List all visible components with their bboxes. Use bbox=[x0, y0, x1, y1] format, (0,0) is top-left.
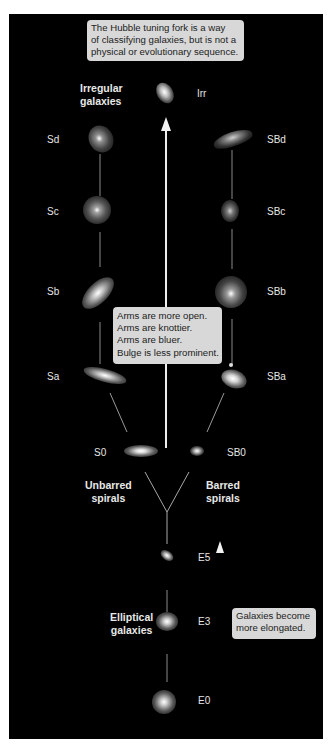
sb0-galaxy-image bbox=[190, 446, 204, 456]
note-line: Arms are knottier. bbox=[117, 322, 218, 334]
note-line: more elongated. bbox=[236, 622, 312, 634]
fork-stem bbox=[145, 472, 189, 544]
label-line: spirals bbox=[206, 492, 240, 505]
s0-galaxy-image bbox=[124, 445, 158, 457]
class-label-sb0: SB0 bbox=[227, 447, 246, 459]
classification-note: The Hubble tuning fork is a way of class… bbox=[87, 20, 244, 61]
class-label-sbd: SBd bbox=[267, 134, 286, 146]
sc-galaxy-image bbox=[83, 196, 111, 224]
class-label-sbb: SBb bbox=[267, 286, 286, 298]
class-label-sd: Sd bbox=[47, 134, 59, 146]
irregular-galaxies-label: Irregular galaxies bbox=[80, 82, 123, 108]
note-line: Bulge is less prominent. bbox=[117, 347, 218, 359]
elliptical-trend-note: Galaxies become more elongated. bbox=[232, 608, 316, 639]
note-line: physical or evolutionary sequence. bbox=[91, 46, 240, 58]
class-label-sc: Sc bbox=[47, 206, 59, 218]
sbb-galaxy-image bbox=[215, 276, 247, 308]
label-line: spirals bbox=[85, 492, 132, 505]
unbarred-spirals-label: Unbarred spirals bbox=[85, 479, 132, 505]
elongation-arrow-icon bbox=[216, 541, 224, 690]
tuning-fork-diagram: The Hubble tuning fork is a way of class… bbox=[9, 14, 323, 739]
class-label-s0: S0 bbox=[94, 447, 106, 459]
class-label-e0: E0 bbox=[198, 695, 210, 707]
note-line: Arms are bluer. bbox=[117, 334, 218, 346]
label-line: Irregular bbox=[80, 82, 123, 95]
note-line: The Hubble tuning fork is a way bbox=[91, 22, 240, 34]
label-line: galaxies bbox=[80, 95, 123, 108]
note-line: Galaxies become bbox=[236, 610, 312, 622]
class-label-sa: Sa bbox=[47, 371, 59, 383]
note-line: Arms are more open. bbox=[117, 310, 218, 322]
e3-galaxy-image bbox=[156, 612, 178, 631]
sba-star-dot bbox=[229, 363, 233, 367]
label-line: Barred bbox=[206, 479, 240, 492]
sbc-galaxy-image bbox=[221, 200, 239, 222]
e0-galaxy-image bbox=[152, 690, 176, 714]
note-line: of classifying galaxies, but is not a bbox=[91, 34, 240, 46]
class-label-sbc: SBc bbox=[267, 206, 285, 218]
class-label-sba: SBa bbox=[267, 371, 286, 383]
spiral-trend-note: Arms are more open. Arms are knottier. A… bbox=[113, 307, 222, 364]
label-line: galaxies bbox=[110, 624, 153, 637]
class-label-irr: Irr bbox=[197, 88, 206, 100]
label-line: Unbarred bbox=[85, 479, 132, 492]
barred-spirals-label: Barred spirals bbox=[206, 479, 240, 505]
elliptical-galaxies-label: Elliptical galaxies bbox=[110, 611, 153, 637]
class-label-e5: E5 bbox=[198, 552, 210, 564]
main-arrow-icon bbox=[161, 117, 171, 448]
class-label-e3: E3 bbox=[198, 616, 210, 628]
label-line: Elliptical bbox=[110, 611, 153, 624]
class-label-sb: Sb bbox=[47, 286, 59, 298]
